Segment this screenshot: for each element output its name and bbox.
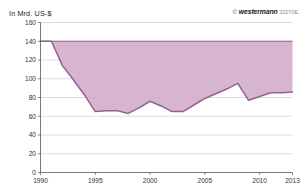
y-tick-label-80: 80 (29, 94, 37, 101)
y-tick-label-160: 160 (25, 19, 36, 26)
chart-plot: 0204060801001201401601990199520002005201… (0, 0, 303, 194)
area-fill (41, 41, 293, 113)
y-tick-label-0: 0 (32, 169, 36, 176)
chart-container: In Mrd. US-$ © westermann 32070E 0204060… (0, 0, 303, 194)
area-series-group (41, 41, 293, 113)
y-tick-label-40: 40 (29, 131, 37, 138)
y-tick-label-60: 60 (29, 113, 37, 120)
y-tick-label-140: 140 (25, 38, 36, 45)
x-tick-label-1990: 1990 (33, 177, 48, 184)
x-tick-label-2000: 2000 (143, 177, 158, 184)
y-tick-label-20: 20 (29, 150, 37, 157)
y-tick-label-120: 120 (25, 56, 36, 63)
x-tick-label-2010: 2010 (252, 177, 267, 184)
x-tick-label-2013: 2013 (285, 177, 300, 184)
y-tick-label-100: 100 (25, 75, 36, 82)
x-tick-label-2005: 2005 (198, 177, 213, 184)
x-tick-label-1995: 1995 (88, 177, 103, 184)
